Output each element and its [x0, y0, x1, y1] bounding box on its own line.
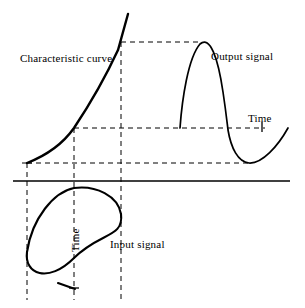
characteristic-curve-label: Characteristic curve	[20, 52, 112, 64]
diagram-canvas	[0, 0, 305, 308]
characteristic-curve-path	[27, 14, 128, 163]
construction-lines	[27, 42, 265, 300]
signal-distortion-diagram: Characteristic curve Output signal Time …	[0, 0, 305, 308]
output-signal-label: Output signal	[211, 50, 273, 62]
time-label-input: Time	[69, 228, 81, 252]
input-signal-label: Input signal	[110, 238, 165, 250]
time-label-output: Time	[248, 112, 272, 124]
